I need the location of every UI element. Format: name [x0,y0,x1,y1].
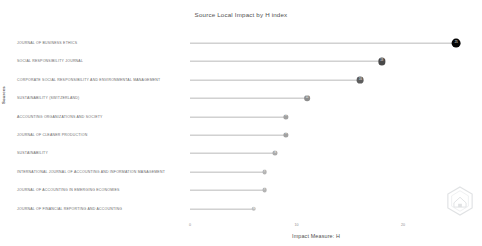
stem-line [190,208,254,209]
stem-line [190,43,456,44]
data-point[interactable]: 18 [378,58,385,65]
chart-row: JOURNAL OF ACCOUNTING IN EMERGING ECONOM… [0,183,482,197]
lollipop-chart: Source Local Impact by H index Sources J… [0,0,482,246]
category-label: ACCOUNTING ORGANIZATIONS AND SOCIETY [17,115,103,119]
data-point-value: 18 [380,60,383,63]
category-label: JOURNAL OF CLEANER PRODUCTION [17,133,87,137]
data-point[interactable]: 6 [252,206,257,211]
chart-row: INTERNATIONAL JOURNAL OF ACCOUNTING AND … [0,165,482,179]
chart-row: JOURNAL OF CLEANER PRODUCTION9 [0,128,482,142]
stem-line [190,116,286,117]
data-point[interactable]: 9 [283,132,288,137]
data-point-value: 9 [285,115,286,118]
chart-row: SOCIAL RESPONSIBILITY JOURNAL18 [0,54,482,68]
data-point-value: 11 [306,97,309,100]
data-point-value: 9 [285,134,286,137]
x-axis-title: Impact Measure: H [292,233,340,239]
chart-row: SUSTAINABILITY8 [0,146,482,160]
x-tick-label: 0 [189,223,191,227]
category-label: SUSTAINABILITY [17,151,48,155]
data-point-value: 7 [264,189,265,192]
chart-row: CORPORATE SOCIAL RESPONSIBILITY AND ENVI… [0,73,482,87]
data-point[interactable]: 25 [452,39,461,48]
chart-row: JOURNAL OF BUSINESS ETHICS25 [0,36,482,50]
data-point-value: 25 [455,42,458,45]
stem-line [190,135,286,136]
hexagon-logo-watermark [446,186,474,216]
category-label: JOURNAL OF ACCOUNTING IN EMERGING ECONOM… [17,188,120,192]
data-point[interactable]: 7 [262,188,267,193]
category-label: SUSTAINABILITY (SWITZERLAND) [17,96,79,100]
stem-line [190,98,307,99]
data-point-value: 8 [274,152,275,155]
stem-line [190,61,382,62]
data-point-value: 16 [359,78,362,81]
data-point[interactable]: 16 [357,76,364,83]
stem-line [190,171,265,172]
data-point[interactable]: 11 [304,95,310,101]
category-label: JOURNAL OF BUSINESS ETHICS [17,41,77,45]
stem-line [190,153,275,154]
data-point[interactable]: 7 [262,169,267,174]
x-tick-label: 10 [295,223,299,227]
stem-line [190,190,265,191]
data-point[interactable]: 8 [273,151,278,156]
category-label: INTERNATIONAL JOURNAL OF ACCOUNTING AND … [17,170,165,174]
data-point-value: 6 [253,207,254,210]
chart-row: JOURNAL OF FINANCIAL REPORTING AND ACCOU… [0,202,482,216]
data-point[interactable]: 9 [283,114,288,119]
chart-row: SUSTAINABILITY (SWITZERLAND)11 [0,91,482,105]
x-tick-label: 20 [401,223,405,227]
chart-row: ACCOUNTING ORGANIZATIONS AND SOCIETY9 [0,110,482,124]
data-point-value: 7 [264,171,265,174]
plot-area: JOURNAL OF BUSINESS ETHICS25SOCIAL RESPO… [0,0,482,246]
category-label: JOURNAL OF FINANCIAL REPORTING AND ACCOU… [17,207,122,211]
category-label: CORPORATE SOCIAL RESPONSIBILITY AND ENVI… [17,78,160,82]
stem-line [190,79,360,80]
category-label: SOCIAL RESPONSIBILITY JOURNAL [17,59,83,63]
